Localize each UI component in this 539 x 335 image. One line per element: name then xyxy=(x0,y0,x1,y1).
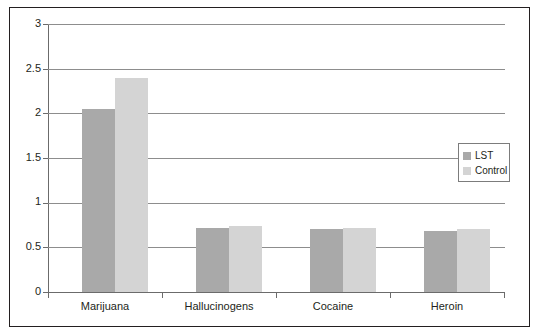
bar-group xyxy=(300,24,386,292)
legend-entry-lst: LST xyxy=(463,148,509,163)
bar-lst xyxy=(82,109,115,292)
bar-control xyxy=(115,78,148,292)
x-tick-mark xyxy=(504,292,505,298)
legend-swatch-icon xyxy=(463,167,471,175)
legend-label: Control xyxy=(475,166,507,176)
bar-group xyxy=(72,24,158,292)
y-axis-labels: 3 2.5 2 1.5 1 0.5 0 xyxy=(0,0,41,335)
y-tick-label: 2 xyxy=(5,107,41,118)
x-tick-mark xyxy=(48,292,49,298)
chart-figure: 3 2.5 2 1.5 1 0.5 0 xyxy=(0,0,539,335)
y-tick-label: 3 xyxy=(5,18,41,29)
legend-entry-control: Control xyxy=(463,163,509,178)
x-tick-label-hallucinogens: Hallucinogens xyxy=(162,300,276,313)
x-tick-label-cocaine: Cocaine xyxy=(276,300,390,313)
y-tick-label: 2.5 xyxy=(5,63,41,74)
y-tick-label: 1.5 xyxy=(5,152,41,163)
x-tick-mark xyxy=(276,292,277,298)
bar-lst xyxy=(196,228,229,292)
x-tick-mark xyxy=(162,292,163,298)
x-tick-label-marijuana: Marijuana xyxy=(48,300,162,313)
y-tick-label: 1 xyxy=(5,196,41,207)
bar-lst xyxy=(310,229,343,292)
bar-control xyxy=(457,229,490,292)
x-tick-mark xyxy=(390,292,391,298)
bar-control xyxy=(229,226,262,292)
bar-lst xyxy=(424,231,457,292)
y-tick-label: 0.5 xyxy=(5,241,41,252)
x-tick-label-heroin: Heroin xyxy=(390,300,504,313)
legend: LST Control xyxy=(458,143,510,182)
legend-label: LST xyxy=(475,151,493,161)
bar-control xyxy=(343,228,376,292)
bar-group xyxy=(186,24,272,292)
legend-swatch-icon xyxy=(463,152,471,160)
plot-area xyxy=(48,24,505,292)
y-tick-label: 0 xyxy=(5,286,41,297)
